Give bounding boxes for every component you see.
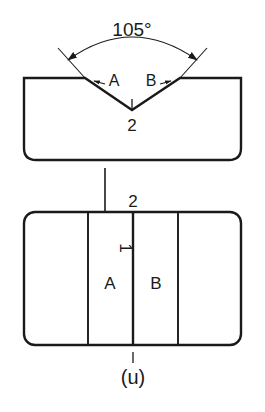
bevel-label-b: B <box>146 72 157 89</box>
extension-line-right <box>180 48 207 78</box>
upper-view-group: 105° A B 2 <box>24 19 241 160</box>
figure-root: 105° A B 2 2 1 <box>0 0 265 412</box>
plan-zone-label-a: A <box>104 274 116 293</box>
plan-label-2: 2 <box>128 192 137 211</box>
extension-line-left <box>58 48 85 78</box>
weld-joint-diagram: 105° A B 2 2 1 <box>0 0 265 412</box>
plan-zone-label-b: B <box>150 274 161 293</box>
angle-label: 105° <box>112 19 151 40</box>
leader-line-b <box>160 81 171 84</box>
bevel-label-a: A <box>109 72 120 89</box>
root-label-2: 2 <box>127 116 136 135</box>
leader-line-a <box>94 81 105 84</box>
angle-dimension-arc <box>68 37 197 60</box>
plan-label-1-rotated: 1 <box>116 243 135 252</box>
figure-caption: (u) <box>121 366 145 388</box>
lower-view-group: 2 1 A B <box>24 192 241 363</box>
